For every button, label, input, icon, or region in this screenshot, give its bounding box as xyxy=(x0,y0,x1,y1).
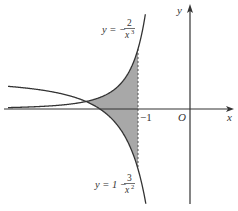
svg-text:2: 2 xyxy=(131,183,134,190)
y-axis-label: y xyxy=(176,4,182,16)
label-cubic-reciprocal: y = − 2 x 3 xyxy=(101,18,135,40)
svg-text:x: x xyxy=(124,185,130,195)
function-plot: x y O −1 y = − 2 x 3 y = 1 − 3 x 2 xyxy=(0,0,238,211)
x-tick-label-minus-1: −1 xyxy=(140,111,152,123)
svg-text:2: 2 xyxy=(127,18,132,28)
svg-text:3: 3 xyxy=(127,173,132,183)
svg-text:x: x xyxy=(124,30,130,40)
svg-text:y = −: y = − xyxy=(101,24,126,35)
svg-text:3: 3 xyxy=(131,28,134,35)
origin-label: O xyxy=(178,111,186,123)
label-quadratic-reciprocal: y = 1 − 3 x 2 xyxy=(94,173,135,195)
svg-text:y = 1 −: y = 1 − xyxy=(94,179,127,190)
x-axis-label: x xyxy=(226,111,232,123)
